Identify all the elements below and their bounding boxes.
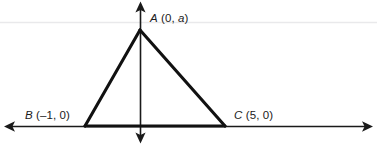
point-label-a-letter: A [150,12,158,24]
point-label-b: B (–1, 0) [25,110,70,122]
point-label-a: A (0, a) [150,13,189,25]
triangle-abc [85,30,225,126]
point-label-c: C (5, 0) [234,110,273,122]
point-label-b-coords: (–1, 0) [36,109,70,121]
triangle-edge-ab [85,30,140,126]
figure-canvas: A (0, a) B (–1, 0) C (5, 0) [0,0,377,145]
point-label-a-coords: (0, a) [161,12,188,24]
point-label-c-coords: (5, 0) [246,109,273,121]
triangle-edge-ac [140,30,225,126]
point-label-b-letter: B [25,109,33,121]
